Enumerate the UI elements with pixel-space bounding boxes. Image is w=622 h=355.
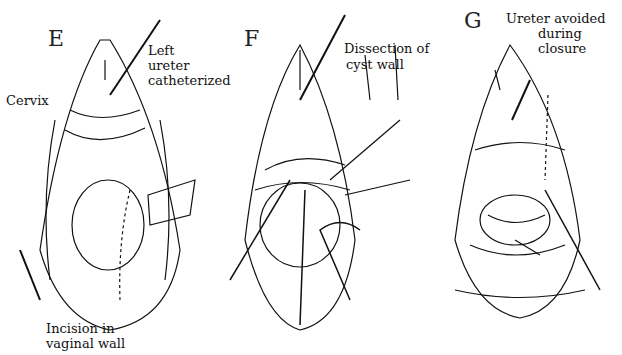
panel-letter-g: G xyxy=(464,8,482,33)
label-ureter-avoided-1: Ureter avoided xyxy=(506,12,606,26)
label-incision-2: vaginal wall xyxy=(46,337,125,351)
label-dissection-2: cyst wall xyxy=(346,58,404,72)
panel-letter-e: E xyxy=(48,26,64,51)
label-left-ureter-2: ureter xyxy=(148,59,189,73)
surgical-illustration xyxy=(0,0,622,355)
label-left-ureter-3: catheterized xyxy=(148,74,230,88)
panel-g-drawing xyxy=(455,45,600,318)
label-cervix: Cervix xyxy=(6,94,49,108)
label-incision-1: Incision in xyxy=(46,322,115,336)
label-dissection-1: Dissection of xyxy=(344,42,429,56)
panel-letter-f: F xyxy=(244,26,259,51)
label-left-ureter-1: Left xyxy=(148,44,174,58)
label-ureter-avoided-2: during xyxy=(538,27,582,41)
label-ureter-avoided-3: closure xyxy=(538,42,586,56)
